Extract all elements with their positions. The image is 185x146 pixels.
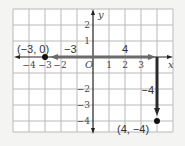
x-tick-neg2: −2 [53,60,66,70]
point-label-4-neg4: (4, −4) [117,123,149,135]
y-tick-neg2: −2 [77,84,90,94]
x-tick-neg4: −4 [22,60,36,70]
y-tick-neg4: −4 [77,116,91,126]
x-tick-2: 2 [122,60,128,70]
y-tick-1: 1 [84,36,90,46]
y-axis-label: y [97,9,104,20]
segment-label-neg4: −4 [141,84,154,96]
segment-label-4: 4 [122,43,128,55]
y-tick-2: 2 [84,20,90,30]
x-tick-neg3: −3 [38,60,52,70]
origin-label: O [85,59,93,70]
x-tick-1: 1 [106,60,112,70]
point-4-neg4 [154,118,160,124]
coordinate-plane: −4 −3 −2 1 2 3 2 1 −2 −3 −4 O x y −3 4 −… [0,0,185,146]
y-tick-neg3: −3 [77,100,91,110]
x-tick-3: 3 [138,60,144,70]
segment-label-neg3: −3 [64,43,77,55]
x-axis-label: x [168,59,174,70]
point-label-neg3-0: (−3, 0) [17,43,49,55]
